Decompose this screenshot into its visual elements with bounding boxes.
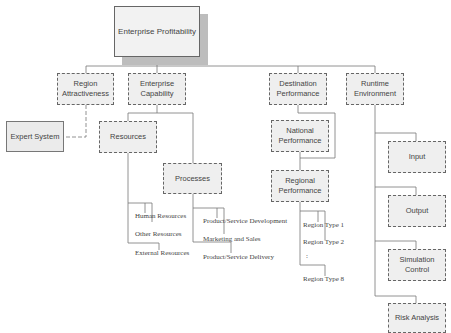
node-runtime-environment[interactable]: Runtime Environment <box>346 73 404 105</box>
leaf-other-resources: Other Resources <box>135 230 181 238</box>
leaf-region-type-1: Region Type 1 <box>303 221 344 229</box>
leaf-region-ellipsis: : <box>306 252 308 260</box>
leaf-product-service-delivery: Product/Service Delivery <box>203 253 274 261</box>
leaf-region-type-8: Region Type 8 <box>303 275 344 283</box>
root-label: Enterprise Profitability <box>118 27 196 37</box>
node-output[interactable]: Output <box>388 195 446 227</box>
leaf-external-resources: External Resources <box>135 249 189 257</box>
node-enterprise-capability[interactable]: Enterprise Capability <box>128 73 186 105</box>
label: Risk Analysis <box>395 313 439 323</box>
label: Simulation Control <box>389 255 445 275</box>
root-node[interactable]: Enterprise Profitability <box>114 6 200 57</box>
leaf-region-type-2: Region Type 2 <box>303 238 344 246</box>
node-expert-system[interactable]: Expert System <box>6 121 64 152</box>
node-processes[interactable]: Processes <box>163 163 222 194</box>
node-risk-analysis[interactable]: Risk Analysis <box>388 303 446 333</box>
node-input[interactable]: Input <box>388 141 446 173</box>
label: Processes <box>175 174 210 184</box>
connector-lines <box>0 0 451 333</box>
label: Output <box>406 206 429 216</box>
node-destination-performance[interactable]: Destination Performance <box>269 73 327 105</box>
node-region-attractiveness[interactable]: Region Attractiveness <box>57 73 114 105</box>
node-resources[interactable]: Resources <box>99 121 157 153</box>
node-regional-performance[interactable]: Regional Performance <box>271 170 329 202</box>
label: Enterprise Capability <box>129 79 185 99</box>
leaf-human-resources: Human Resources <box>135 212 186 220</box>
label: National Performance <box>272 126 328 146</box>
node-simulation-control[interactable]: Simulation Control <box>388 249 446 281</box>
label: Input <box>409 152 426 162</box>
label: Expert System <box>11 132 60 142</box>
label: Runtime Environment <box>347 79 403 99</box>
leaf-marketing-and-sales: Marketing and Sales <box>203 235 261 243</box>
label: Resources <box>110 132 146 142</box>
label: Destination Performance <box>270 79 326 99</box>
label: Region Attractiveness <box>58 79 113 99</box>
node-national-performance[interactable]: National Performance <box>271 120 329 152</box>
label: Regional Performance <box>272 176 328 196</box>
leaf-product-service-development: Product/Service Development <box>203 217 287 225</box>
